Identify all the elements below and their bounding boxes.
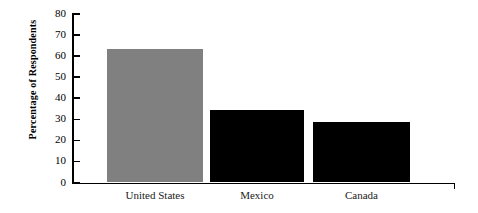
y-axis-tick-label-wrap: 60 [42, 50, 66, 62]
y-axis-tick [72, 97, 80, 99]
y-axis-tick-label-wrap: 0 [42, 177, 66, 189]
y-axis-tick-label-wrap: 40 [42, 92, 66, 104]
x-axis-end-tick [454, 183, 456, 189]
y-axis-tick-label: 10 [42, 155, 66, 166]
y-axis-tick [72, 76, 80, 78]
y-axis-tick [72, 140, 80, 142]
y-axis-tick-label-wrap: 50 [42, 71, 66, 83]
x-axis-label-mexico: Mexico [210, 189, 304, 201]
y-axis-title: Percentage of Respondents [27, 0, 38, 160]
y-axis-tick [72, 13, 80, 15]
x-axis-label-canada: Canada [313, 189, 410, 201]
y-axis-tick-label-wrap: 10 [42, 155, 66, 167]
y-axis-tick [72, 182, 80, 184]
y-axis-tick-label: 40 [42, 92, 66, 103]
y-axis-tick-label-wrap: 70 [42, 29, 66, 41]
y-axis-tick [72, 119, 80, 121]
y-axis-tick-label: 80 [42, 8, 66, 19]
y-axis-tick-label-wrap: 20 [42, 134, 66, 146]
y-axis-tick-label: 30 [42, 113, 66, 124]
y-axis-tick [72, 161, 80, 163]
x-axis-label-united-states: United States [107, 189, 203, 201]
y-axis-tick-label: 20 [42, 134, 66, 145]
y-axis-tick [72, 34, 80, 36]
bar-canada [313, 122, 410, 182]
y-axis-tick-label: 0 [42, 177, 66, 188]
bar-chart: Percentage of Respondents 01020304050607… [0, 0, 478, 213]
x-axis-line [72, 183, 455, 185]
y-axis-tick-label: 60 [42, 50, 66, 61]
y-axis-tick-label: 70 [42, 29, 66, 40]
bar-mexico [210, 110, 304, 183]
bar-united-states [107, 49, 203, 183]
y-axis-tick-label-wrap: 80 [42, 8, 66, 20]
y-axis-tick-label: 50 [42, 71, 66, 82]
y-axis-tick-label-wrap: 30 [42, 113, 66, 125]
y-axis-tick [72, 55, 80, 57]
